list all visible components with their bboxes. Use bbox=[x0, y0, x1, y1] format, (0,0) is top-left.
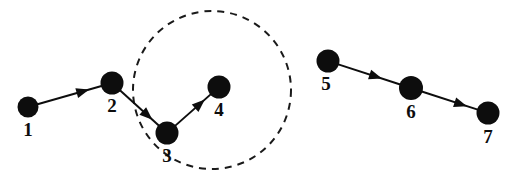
diagram-canvas: 1234567 bbox=[0, 0, 519, 178]
edge-6-7 bbox=[421, 91, 479, 110]
arrowhead bbox=[75, 88, 89, 98]
edge-line bbox=[119, 90, 159, 127]
node-label-1: 1 bbox=[16, 120, 40, 139]
edge-3-4 bbox=[174, 94, 211, 127]
edge-line bbox=[338, 64, 402, 85]
node-2[interactable] bbox=[101, 72, 124, 95]
node-6[interactable] bbox=[399, 76, 423, 100]
arrowhead bbox=[453, 97, 467, 107]
edge-2-3 bbox=[119, 90, 159, 127]
edge-line bbox=[174, 94, 211, 127]
edge-5-6 bbox=[338, 64, 402, 85]
node-7[interactable] bbox=[477, 102, 500, 125]
node-label-5: 5 bbox=[314, 74, 338, 93]
diagram-svg bbox=[0, 0, 519, 178]
node-layer bbox=[18, 50, 500, 145]
node-label-2: 2 bbox=[100, 96, 124, 115]
node-4[interactable] bbox=[208, 76, 231, 99]
edge-line bbox=[421, 91, 479, 110]
node-3[interactable] bbox=[156, 122, 179, 145]
node-label-7: 7 bbox=[476, 127, 500, 146]
node-1[interactable] bbox=[18, 97, 39, 118]
arrowhead bbox=[368, 70, 382, 80]
node-label-4: 4 bbox=[207, 100, 231, 119]
edge-line bbox=[37, 86, 103, 105]
node-label-6: 6 bbox=[399, 102, 423, 121]
node-label-3: 3 bbox=[155, 146, 179, 165]
edge-1-2 bbox=[37, 86, 103, 105]
node-5[interactable] bbox=[317, 50, 340, 73]
